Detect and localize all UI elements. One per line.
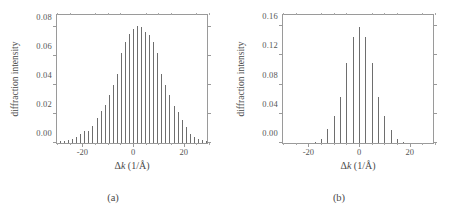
y-axis-tick-label: 0.00 — [36, 128, 52, 138]
x-axis-minor-tick — [283, 143, 284, 145]
diffraction-peak — [109, 95, 110, 143]
x-axis-tick-label: 0 — [131, 147, 135, 157]
y-axis-tick-label: 0.02 — [36, 99, 52, 109]
diffraction-peak — [327, 129, 328, 143]
diffraction-peak — [391, 130, 392, 144]
panel-b: diffraction intensity 0.000.040.080.120.… — [226, 0, 452, 222]
figure-container: diffraction intensity 0.000.020.040.060.… — [0, 0, 452, 222]
y-axis-tick-label: 0.08 — [36, 12, 52, 22]
x-axis-minor-tick — [57, 143, 58, 145]
diffraction-peak — [365, 37, 366, 143]
y-axis-tick — [279, 54, 283, 55]
y-axis-title-a: diffraction intensity — [8, 14, 22, 144]
x-axis-minor-tick — [397, 143, 398, 145]
diffraction-peak — [92, 126, 93, 143]
diffraction-peak — [353, 37, 354, 143]
x-axis-minor-tick — [70, 143, 71, 145]
x-axis-minor-tick — [346, 143, 347, 145]
x-axis-minor-tick-top — [372, 13, 373, 15]
diffraction-peak — [346, 63, 347, 143]
x-axis-minor-tick-top — [296, 13, 297, 15]
y-axis-tick-label: 0.08 — [262, 70, 278, 80]
x-axis-minor-tick-top — [70, 13, 71, 15]
y-axis-tick-label: 0.06 — [36, 41, 52, 51]
diffraction-peak — [125, 42, 126, 143]
x-axis-minor-tick — [334, 143, 335, 145]
x-axis-minor-tick-top — [422, 13, 423, 15]
diffraction-peak — [64, 141, 65, 143]
diffraction-peak — [165, 85, 166, 143]
x-axis-minor-tick-top — [321, 13, 322, 15]
diffraction-peak — [334, 116, 335, 143]
diffraction-peak — [315, 142, 316, 143]
y-axis-tick — [279, 25, 283, 26]
diffraction-peak — [117, 74, 118, 143]
spike-series-a: 0.000.020.040.060.08-20020 — [57, 15, 207, 143]
diffraction-peak — [80, 134, 81, 143]
x-axis-minor-tick-top — [384, 13, 385, 15]
x-axis-minor-tick — [196, 143, 197, 145]
diffraction-peak — [174, 106, 175, 143]
y-axis-tick — [53, 113, 57, 114]
x-axis-tick-label: 20 — [405, 147, 414, 157]
diffraction-peak — [88, 131, 89, 143]
diffraction-peak — [60, 141, 61, 143]
caption-a: (a) — [0, 192, 226, 203]
x-axis-minor-tick — [158, 143, 159, 145]
y-axis-tick-right — [433, 113, 437, 114]
diffraction-peak — [378, 97, 379, 143]
x-axis-minor-tick — [146, 143, 147, 145]
x-axis-tick-label: 0 — [357, 147, 361, 157]
diffraction-peak — [169, 95, 170, 143]
x-axis-minor-tick-top — [95, 13, 96, 15]
x-axis-title-a: Δk (1/Å) — [56, 160, 208, 171]
x-axis-minor-tick-top — [120, 13, 121, 15]
x-axis-minor-tick — [95, 143, 96, 145]
y-axis-tick-label: 0.00 — [262, 128, 278, 138]
x-axis-minor-tick-top — [209, 13, 210, 15]
y-axis-tick-right — [433, 25, 437, 26]
x-axis-tick-label: 20 — [179, 147, 188, 157]
diffraction-peak — [137, 26, 138, 143]
diffraction-peak — [113, 85, 114, 143]
x-axis-minor-tick — [108, 143, 109, 145]
diffraction-peak — [105, 105, 106, 143]
x-axis-minor-tick-top — [57, 13, 58, 15]
x-axis-minor-tick — [296, 143, 297, 145]
y-axis-tick-right — [433, 84, 437, 85]
diffraction-peak — [129, 34, 130, 143]
x-axis-minor-tick — [435, 143, 436, 145]
panel-a: diffraction intensity 0.000.020.040.060.… — [0, 0, 226, 222]
y-axis-tick-right — [207, 26, 211, 27]
x-axis-minor-tick — [171, 143, 172, 145]
y-axis-tick-label: 0.04 — [36, 70, 52, 80]
x-axis-title-b: Δk (1/Å) — [282, 160, 434, 171]
x-axis-minor-tick-top — [196, 13, 197, 15]
diffraction-peak — [194, 137, 195, 143]
x-axis-tick-label: -20 — [77, 147, 88, 157]
diffraction-peak — [190, 134, 191, 143]
y-axis-tick — [53, 84, 57, 85]
diffraction-peak — [153, 42, 154, 143]
y-axis-tick-label: 0.04 — [262, 99, 278, 109]
y-axis-tick-right — [207, 113, 211, 114]
x-axis-minor-tick — [321, 143, 322, 145]
y-axis-tick-right — [207, 84, 211, 85]
x-axis-minor-tick-top — [283, 13, 284, 15]
diffraction-peak — [384, 116, 385, 143]
x-axis-minor-tick — [422, 143, 423, 145]
diffraction-peak — [145, 32, 146, 143]
x-axis-minor-tick-top — [334, 13, 335, 15]
diffraction-peak — [157, 53, 158, 143]
spike-series-b: 0.000.040.080.120.16-20020 — [283, 15, 433, 143]
y-axis-tick — [279, 113, 283, 114]
diffraction-peak — [202, 140, 203, 143]
y-axis-tick-label: 0.16 — [262, 11, 278, 21]
x-axis-minor-tick-top — [158, 13, 159, 15]
diffraction-peak — [133, 29, 134, 143]
caption-b: (b) — [226, 192, 452, 203]
y-axis-tick — [53, 55, 57, 56]
diffraction-peak — [72, 139, 73, 143]
plot-area-a: 0.000.020.040.060.08-20020 — [56, 14, 208, 144]
diffraction-peak — [97, 118, 98, 143]
